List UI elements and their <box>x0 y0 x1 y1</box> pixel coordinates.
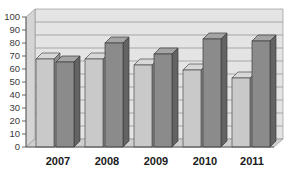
ytick-label: 100 <box>4 11 20 22</box>
bar-group-2007 <box>36 53 80 147</box>
bar-2008-series2 <box>105 37 129 147</box>
ytick-label: 80 <box>9 37 20 48</box>
bar-2007-series2 <box>56 56 80 147</box>
y-axis-ticks: 100 90 80 70 60 50 40 30 20 10 0 <box>4 11 26 152</box>
ytick-label: 30 <box>9 102 20 113</box>
xtick-label-2010: 2010 <box>193 155 217 167</box>
xtick-label-2007: 2007 <box>46 155 70 167</box>
bar-chart: 100 90 80 70 60 50 40 30 20 10 0 2007 20… <box>0 0 289 181</box>
ytick-label: 10 <box>9 128 20 139</box>
xtick-label-2009: 2009 <box>144 155 168 167</box>
ytick-label: 40 <box>9 89 20 100</box>
bar-2009-series2 <box>154 48 178 147</box>
ytick-label: 50 <box>9 76 20 87</box>
bar-group-2009 <box>134 48 178 147</box>
bar-2010-series2 <box>203 33 227 147</box>
ytick-label: 0 <box>15 141 20 152</box>
xtick-label-2008: 2008 <box>95 155 119 167</box>
ytick-label: 70 <box>9 50 20 61</box>
ytick-label: 90 <box>9 24 20 35</box>
xtick-label-2011: 2011 <box>240 155 264 167</box>
chart-canvas: 100 90 80 70 60 50 40 30 20 10 0 2007 20… <box>0 0 289 181</box>
x-axis-labels: 2007 2008 2009 2010 2011 <box>46 155 264 167</box>
bar-2011-series2 <box>252 35 276 147</box>
ytick-label: 60 <box>9 63 20 74</box>
left-side-wall <box>26 9 35 147</box>
bar-group-2008 <box>85 37 129 147</box>
ytick-label: 20 <box>9 115 20 126</box>
